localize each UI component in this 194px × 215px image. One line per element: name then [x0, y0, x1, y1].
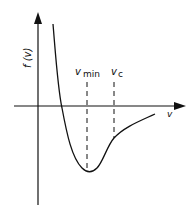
y-axis-arrow-icon: [34, 12, 42, 24]
potential-curve-diagram: f (v) vmin vc v: [0, 0, 194, 215]
x-axis-arrow-icon: [174, 102, 186, 110]
vmin-label: vmin: [75, 66, 100, 79]
y-axis-label: f (v): [22, 48, 33, 68]
x-axis-label: v: [167, 109, 173, 119]
vc-label: vc: [111, 66, 123, 79]
function-curve: [53, 24, 155, 172]
